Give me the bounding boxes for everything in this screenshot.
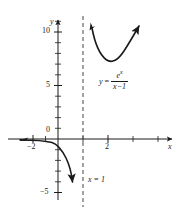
y-axis [54,20,62,200]
equation-annotation: y = ex x−1 [99,72,128,91]
y-tick-label-10: 10 [42,27,50,35]
graph-figure: y x 10 5 0 −5 −2 2 x = 1 y = ex x−1 [0,0,181,211]
y-axis-label: y [50,18,54,26]
y-tick-label-0: 0 [46,126,50,134]
equation-denominator-right: 1 [122,82,126,91]
asymptote-label: x = 1 [88,176,105,184]
equation-denominator: x−1 [111,81,128,91]
x-tick-label-2: 2 [105,143,109,151]
curve-right-branch [92,26,139,61]
equation-lhs: y [99,77,103,86]
y-tick-label-minus-5: −5 [40,188,49,196]
equation-equals: = [105,77,110,86]
equation-numerator-exponent: x [120,69,123,75]
y-tick-label-5: 5 [46,81,50,89]
equation-numerator: ex [114,72,124,80]
x-tick-label-minus-2: −2 [27,143,36,151]
x-axis-label: x [168,143,172,151]
equation-fraction: ex x−1 [111,72,128,91]
